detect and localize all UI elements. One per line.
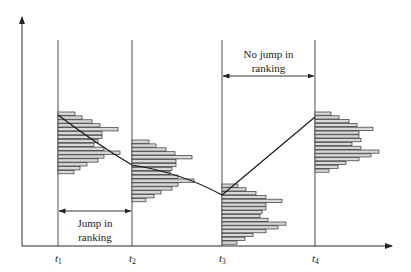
histogram-bar [222, 211, 262, 214]
histogram-bar [222, 233, 253, 236]
histogram-bar [58, 159, 98, 162]
histogram-bar [315, 158, 359, 161]
histogram-bar [58, 171, 74, 174]
histogram-bar [222, 184, 238, 187]
histogram-bar [222, 218, 268, 221]
histogram-bar [222, 199, 282, 202]
histogram-bar [58, 120, 92, 123]
histogram-bar [315, 116, 339, 119]
histogram-bar [315, 139, 361, 142]
histogram-bar [132, 183, 178, 186]
annotations: Jump inrankingNo jump inranking [59, 48, 314, 243]
histogram-bar [58, 155, 104, 158]
histogram-bar [58, 124, 100, 127]
histogram-bar [132, 148, 166, 151]
annotation-text-line1: Jump in [77, 217, 113, 229]
histogram-bar [132, 140, 149, 143]
histogram-bar [58, 163, 87, 166]
histogram-t4 [315, 112, 379, 172]
histogram-bar [58, 112, 75, 115]
histogram-bar [315, 146, 361, 149]
time-label-t1: t1 [55, 252, 62, 266]
histogram-bar [132, 152, 175, 155]
histogram-bar [132, 175, 178, 178]
ranking-trajectory-diagram: Jump inrankingNo jump inranking t1t2t3t4 [0, 0, 411, 272]
histogram-bar [58, 135, 102, 138]
histogram-bar [315, 150, 379, 153]
histogram-bar [222, 222, 286, 225]
histogram-bar [58, 143, 94, 146]
time-label-t4: t4 [312, 252, 319, 266]
histogram-bar [222, 195, 266, 198]
histogram-bar [132, 191, 161, 194]
time-label-t3: t3 [219, 252, 226, 266]
histogram-bar [222, 226, 278, 229]
histogram-bar [132, 187, 172, 190]
annotation-text-line2: ranking [78, 231, 112, 243]
histogram-bar [222, 214, 260, 217]
histogram-bar [222, 188, 246, 191]
histogram-t2 [132, 140, 194, 202]
histogram-bar [132, 195, 154, 198]
histogram-bar [315, 120, 349, 123]
histogram-bar [132, 160, 176, 163]
histogram-bar [132, 156, 192, 159]
histogram-bar [315, 112, 331, 115]
histogram-bar [58, 167, 80, 170]
histogram-bar [132, 179, 194, 182]
annotation-text-line2: ranking [252, 62, 286, 74]
histogram-bar [222, 203, 266, 206]
histogram-bar [58, 147, 104, 150]
histogram-bar [222, 237, 245, 240]
histogram-bar [222, 230, 266, 233]
histogram-bar [222, 241, 237, 244]
histogram-bar [315, 161, 346, 164]
histogram-bar [315, 169, 329, 172]
histogram-bar [315, 165, 338, 168]
annotation-jump: Jump inranking [59, 211, 131, 243]
histogram-bar [315, 123, 357, 126]
diagram-canvas: Jump inrankingNo jump inranking t1t2t3t4 [0, 0, 411, 272]
histogram-bar [315, 135, 359, 138]
histogram-bar [315, 127, 373, 130]
time-labels: t1t2t3t4 [55, 252, 319, 266]
histogram-bar [222, 207, 266, 210]
histogram-bar [132, 144, 156, 147]
histogram-bar [315, 154, 371, 157]
histogram-bar [315, 131, 359, 134]
histogram-bar [58, 128, 118, 131]
histogram-t3 [222, 184, 286, 244]
annotation-text-line1: No jump in [243, 48, 294, 60]
time-label-t2: t2 [129, 252, 136, 266]
histogram-bar [132, 199, 146, 202]
histogram-bar [315, 142, 352, 145]
histogram-bar [222, 192, 256, 195]
histogram-bar [58, 132, 102, 135]
annotation-no-jump: No jump inranking [223, 48, 314, 76]
